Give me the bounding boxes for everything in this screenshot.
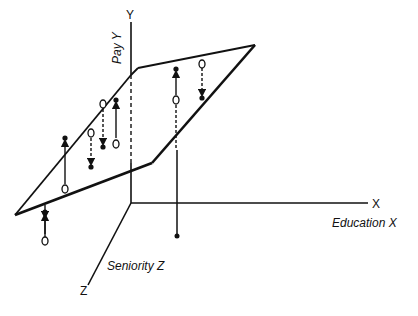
regression-plane [15,45,255,215]
diagram-canvas: Y Pay Y X Education X Seniority Z Z [0,0,418,316]
observed-point [175,234,180,239]
x-axis-label: Education X [332,216,398,230]
axes [88,22,368,285]
z-axis-label: Seniority Z [107,259,165,273]
y-axis-label: Pay Y [110,31,124,64]
residuals [45,68,202,238]
y-axis-letter: Y [126,8,134,22]
z-axis-letter: Z [80,284,87,298]
x-axis-letter: X [372,197,380,211]
regression-plane-diagram: Y Pay Y X Education X Seniority Z Z [0,0,418,316]
